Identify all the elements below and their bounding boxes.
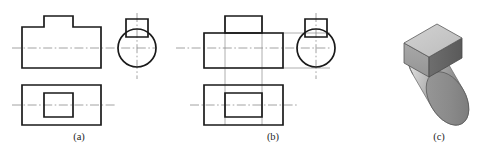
engineering-drawing-canvas (0, 0, 492, 151)
caption-b: (b) (253, 131, 293, 142)
panel-b-front-view-body-rect (204, 33, 283, 68)
caption-c: (c) (419, 131, 459, 142)
panel-a-front-view-outline (22, 16, 101, 68)
panel-b (176, 13, 335, 125)
figure-root: (a) (b) (c) (0, 0, 492, 151)
caption-a: (a) (59, 131, 99, 142)
panel-a (12, 13, 156, 125)
panel-c (398, 24, 477, 133)
panel-b-front-view-boss-rect (225, 16, 262, 33)
